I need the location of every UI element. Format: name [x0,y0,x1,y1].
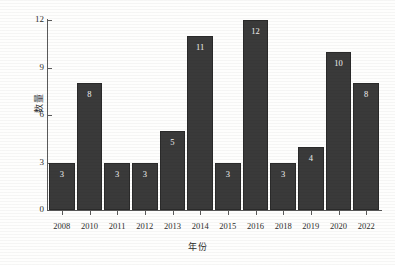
bar[interactable]: 5 [160,131,185,210]
y-tick-label: 12 [26,15,44,24]
y-tick-label: 6 [26,110,44,119]
x-tick-mark [256,211,257,215]
bar-value-label: 11 [188,42,211,52]
bar[interactable]: 4 [298,147,323,210]
x-tick-mark [366,211,367,215]
bar-value-label: 8 [78,89,101,99]
bar[interactable]: 3 [270,163,295,211]
x-tick-mark [173,211,174,215]
x-tick-mark [90,211,91,215]
x-tick-mark [283,211,284,215]
y-tick-label: 3 [26,158,44,167]
x-tick-label: 2022 [346,221,386,231]
x-tick-mark [339,211,340,215]
bar[interactable]: 11 [187,36,212,210]
x-axis-line [47,210,382,211]
x-tick-mark [117,211,118,215]
bar[interactable]: 12 [243,20,268,210]
bar-value-label: 3 [133,169,156,179]
bar-value-label: 8 [354,89,377,99]
bar-value-label: 3 [271,169,294,179]
x-tick-mark [62,211,63,215]
bar[interactable]: 3 [132,163,157,211]
bar[interactable]: 8 [77,83,102,210]
x-tick-mark [228,211,229,215]
bar-value-label: 3 [50,169,73,179]
x-axis-title: 年份 [0,240,395,253]
bar[interactable]: 3 [49,163,74,211]
x-tick-mark [200,211,201,215]
bar-value-label: 4 [299,153,322,163]
bar-value-label: 5 [161,137,184,147]
y-tick-label: 9 [26,63,44,72]
bar[interactable]: 3 [215,163,240,211]
bar-value-label: 3 [216,169,239,179]
bar[interactable]: 10 [326,52,351,210]
y-tick-mark [48,210,52,211]
y-tick-label: 0 [26,205,44,214]
x-tick-mark [145,211,146,215]
y-axis-title: 数量 [32,78,46,128]
bar-value-label: 12 [244,26,267,36]
bar[interactable]: 3 [104,163,129,211]
x-tick-mark [311,211,312,215]
bar-value-label: 10 [327,58,350,68]
bar[interactable]: 8 [353,83,378,210]
bar-chart-figure: 数量 年份 036912 200820102011201220132014201… [0,0,395,265]
bar-value-label: 3 [105,169,128,179]
plot-area: 383351131234108 [48,20,380,210]
